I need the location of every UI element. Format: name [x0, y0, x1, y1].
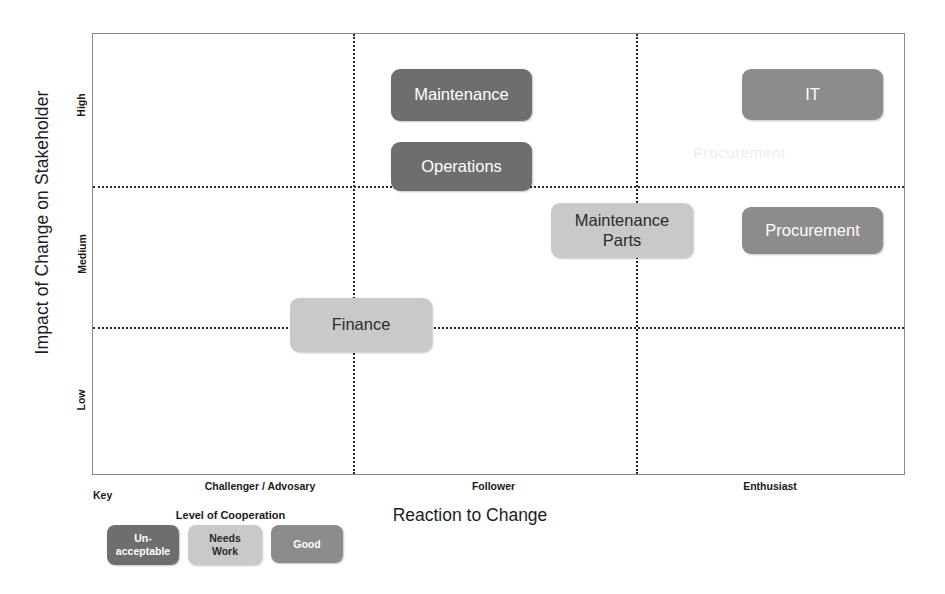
stakeholder-map-chart: Impact of Change on Stakeholder High Med… [0, 0, 945, 594]
node-it[interactable]: IT [742, 69, 883, 120]
legend-swatch-good[interactable]: Good [271, 525, 343, 563]
legend-title: Level of Cooperation [148, 509, 313, 521]
node-maintenance-parts-line2: Parts [603, 231, 642, 250]
legend-swatch-needs-work-line2: Work [212, 545, 238, 558]
node-maintenance-parts-line1: Maintenance [575, 211, 669, 230]
scan-artifact: Procurement [693, 144, 785, 161]
y-tick-label-high: High [75, 87, 87, 123]
y-axis-title: Impact of Change on Stakeholder [32, 33, 53, 413]
legend-swatches: Un- acceptable Needs Work Good [107, 525, 343, 565]
node-maintenance-parts[interactable]: Maintenance Parts [551, 203, 693, 258]
legend-swatch-unacceptable[interactable]: Un- acceptable [107, 525, 179, 565]
legend-swatch-unacceptable-line2: acceptable [116, 545, 170, 558]
legend-key-label: Key [93, 489, 112, 501]
legend-swatch-needs-work[interactable]: Needs Work [188, 525, 262, 565]
grid-line-challenger-follower [353, 34, 355, 474]
x-tick-label-follower: Follower [352, 480, 635, 492]
node-maintenance[interactable]: Maintenance [391, 69, 532, 121]
x-axis-title: Reaction to Change [300, 505, 640, 526]
node-procurement[interactable]: Procurement [742, 207, 883, 254]
grid-line-medium-low [93, 327, 904, 329]
y-tick-label-low: Low [75, 382, 87, 418]
plot-area: Procurement Maintenance Operations IT Ma… [92, 33, 905, 475]
node-operations[interactable]: Operations [391, 142, 532, 191]
x-tick-label-enthusiast: Enthusiast [635, 480, 905, 492]
y-tick-label-medium: Medium [76, 231, 88, 277]
legend-swatch-unacceptable-line1: Un- [134, 532, 152, 545]
legend-swatch-needs-work-line1: Needs [209, 532, 241, 545]
node-finance[interactable]: Finance [290, 298, 432, 352]
